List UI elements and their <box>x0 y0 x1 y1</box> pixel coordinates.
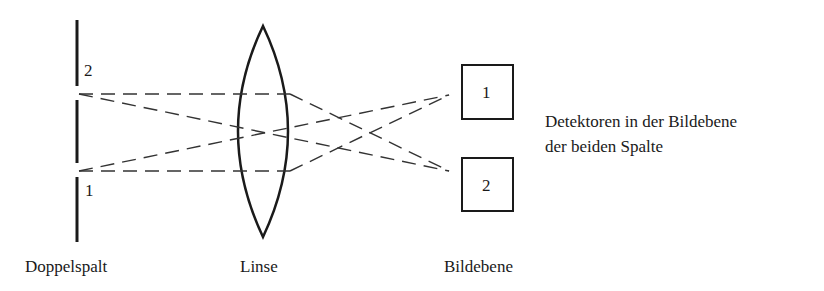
slit-1-label: 1 <box>85 182 94 199</box>
detector-caption-line2: der beiden Spalte <box>545 138 663 155</box>
detector-caption-line1: Detektoren in der Bildebene <box>545 113 737 130</box>
diagram-canvas <box>0 0 824 291</box>
detector-1-label: 1 <box>482 84 491 101</box>
double-slit-label: Doppelspalt <box>25 258 107 275</box>
image-plane-label: Bildebene <box>444 258 513 275</box>
lens-shape <box>238 26 288 237</box>
light-rays <box>79 94 449 171</box>
detector-2-label: 2 <box>482 177 491 194</box>
ray-slit1-refracted <box>290 95 449 171</box>
slit-2-label: 2 <box>84 62 93 79</box>
lens-label: Linse <box>240 258 278 275</box>
